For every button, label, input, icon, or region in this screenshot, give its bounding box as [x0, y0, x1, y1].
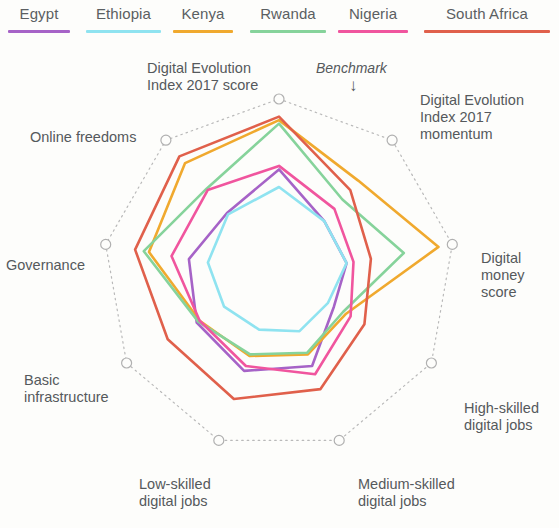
- legend-item-rwanda[interactable]: Rwanda: [250, 4, 326, 33]
- axis-label-low-skilled-digital-jobs: Low-skilleddigital jobs: [139, 476, 259, 510]
- legend-label: South Africa: [446, 4, 528, 24]
- legend-label: Egypt: [20, 4, 59, 24]
- legend: EgyptEthiopiaKenyaRwandaNigeriaSouth Afr…: [0, 0, 559, 42]
- axis-label-line: High-skilled: [464, 400, 559, 417]
- axis-label-high-skilled-digital-jobs: High-skilleddigital jobs: [464, 400, 559, 434]
- axis-label-digital-money-score: Digitalmoneyscore: [481, 250, 559, 301]
- axis-label-line: Index 2017 score: [147, 77, 297, 94]
- axis-vertex-marker: [426, 358, 436, 368]
- legend-label: Nigeria: [349, 4, 397, 24]
- legend-label: Rwanda: [260, 4, 316, 24]
- radar-chart: Digital EvolutionIndex 2017 scoreDigital…: [0, 42, 559, 528]
- legend-item-south-africa[interactable]: South Africa: [424, 4, 550, 33]
- legend-color-swatch: [424, 30, 550, 33]
- legend-item-ethiopia[interactable]: Ethiopia: [86, 4, 161, 33]
- axis-vertex-marker: [274, 94, 284, 104]
- axis-vertex-marker: [122, 358, 132, 368]
- legend-label: Ethiopia: [96, 4, 151, 24]
- legend-item-nigeria[interactable]: Nigeria: [338, 4, 408, 33]
- axis-label-line: momentum: [420, 126, 558, 143]
- series-polygons: [135, 117, 438, 399]
- axis-label-line: Index 2017: [420, 109, 558, 126]
- axis-label-line: Governance: [6, 257, 106, 274]
- series-polygon-ethiopia[interactable]: [208, 187, 347, 331]
- axis-label-line: Low-skilled: [139, 476, 259, 493]
- axis-label-governance: Governance: [6, 257, 106, 274]
- axis-label-line: Online freedoms: [30, 129, 162, 146]
- axis-label-line: score: [481, 284, 559, 301]
- axis-vertex-marker: [387, 135, 397, 145]
- legend-color-swatch: [86, 30, 161, 33]
- legend-color-swatch: [173, 30, 233, 33]
- axis-vertex-marker: [334, 435, 344, 445]
- legend-label: Kenya: [181, 4, 224, 24]
- axis-label-digital-evolution-index-2017-score: Digital EvolutionIndex 2017 score: [147, 60, 297, 94]
- axis-label-line: digital jobs: [464, 417, 559, 434]
- axis-label-line: infrastructure: [24, 389, 136, 406]
- benchmark-annotation-label: Benchmark: [316, 60, 387, 76]
- axis-label-line: Digital Evolution: [420, 92, 558, 109]
- axis-label-line: Digital: [481, 250, 559, 267]
- legend-item-kenya[interactable]: Kenya: [173, 4, 233, 33]
- series-polygon-kenya[interactable]: [149, 120, 439, 356]
- axis-label-digital-evolution-index-2017-momentum: Digital EvolutionIndex 2017momentum: [420, 92, 558, 143]
- axis-vertex-marker: [161, 135, 171, 145]
- legend-item-egypt[interactable]: Egypt: [8, 4, 70, 33]
- axis-label-line: Medium-skilled: [358, 476, 498, 493]
- axis-label-line: money: [481, 267, 559, 284]
- legend-color-swatch: [8, 30, 70, 33]
- axis-label-line: Digital Evolution: [147, 60, 297, 77]
- axis-label-medium-skilled-digital-jobs: Medium-skilleddigital jobs: [358, 476, 498, 510]
- axis-label-line: digital jobs: [139, 493, 259, 510]
- axis-vertex-marker: [447, 239, 457, 249]
- axis-label-line: digital jobs: [358, 493, 498, 510]
- benchmark-arrow-icon: ↓: [349, 78, 358, 94]
- axis-label-line: Basic: [24, 372, 136, 389]
- legend-color-swatch: [250, 30, 326, 33]
- axis-label-online-freedoms: Online freedoms: [30, 129, 162, 146]
- axis-vertex-marker: [214, 435, 224, 445]
- axis-vertex-marker: [101, 239, 111, 249]
- legend-color-swatch: [338, 30, 408, 33]
- axis-label-basic-infrastructure: Basicinfrastructure: [24, 372, 136, 406]
